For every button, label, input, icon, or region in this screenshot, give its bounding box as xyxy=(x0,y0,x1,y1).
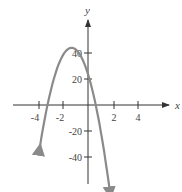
parabola-chart: -4 -2 2 4 40 20 -20 -40 x y xyxy=(0,0,182,192)
x-tick-label: -4 xyxy=(31,112,39,123)
x-axis-label: x xyxy=(174,99,180,111)
y-tick-label: -40 xyxy=(69,152,82,163)
y-axis-label: y xyxy=(84,4,90,16)
x-tick-label: 4 xyxy=(136,112,141,123)
parabola-curve xyxy=(40,48,111,192)
x-tick-label: -2 xyxy=(56,112,64,123)
y-tick-label: 20 xyxy=(72,74,82,85)
x-tick-label: 2 xyxy=(112,112,117,123)
y-tick-label: -20 xyxy=(69,126,82,137)
